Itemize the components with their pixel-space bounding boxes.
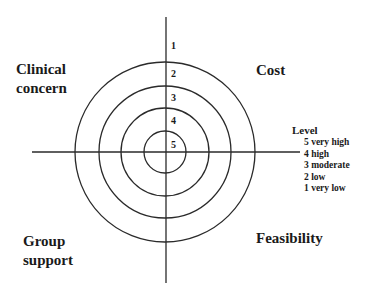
legend-title: Level <box>292 124 350 137</box>
ring-number-5: 5 <box>171 139 176 150</box>
quadrant-label-feasibility: Feasibility <box>256 229 323 248</box>
legend-items: 5 very high 4 high 3 moderate 2 low 1 ve… <box>304 137 350 195</box>
legend-item: 4 high <box>304 149 350 161</box>
ring-number-4: 4 <box>171 115 176 126</box>
legend: Level 5 very high 4 high 3 moderate 2 lo… <box>292 124 350 195</box>
ring-number-2: 2 <box>171 68 176 79</box>
quadrant-label-line: Group <box>23 232 73 251</box>
legend-item: 1 very low <box>304 183 350 195</box>
quadrant-label-group-support: Group support <box>23 232 73 270</box>
legend-item: 5 very high <box>304 137 350 149</box>
quadrant-label-line: concern <box>16 79 67 98</box>
ring-number-1: 1 <box>171 40 176 51</box>
quadrant-label-line: Cost <box>256 61 285 80</box>
ring-number-3: 3 <box>171 92 176 103</box>
legend-item: 3 moderate <box>304 160 350 172</box>
quadrant-label-cost: Cost <box>256 61 285 80</box>
quadrant-label-line: Clinical <box>16 60 67 79</box>
legend-item: 2 low <box>304 172 350 184</box>
quadrant-label-line: Feasibility <box>256 229 323 248</box>
quadrant-label-line: support <box>23 251 73 270</box>
quadrant-label-clinical-concern: Clinical concern <box>16 60 67 98</box>
